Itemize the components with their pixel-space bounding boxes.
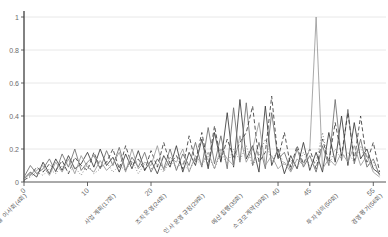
xtick-label: 45 xyxy=(302,187,313,198)
ytick-label: 0.6 xyxy=(9,80,19,87)
x-category-label: 경영평가(56회) xyxy=(350,192,384,226)
ytick-label: 0 xyxy=(15,179,19,186)
ytick-label: 0.4 xyxy=(9,113,19,120)
chart-container: 00.20.40.60.8101020404555월별 이사회(4회)사업계획(… xyxy=(0,0,388,237)
ytick-label: 0.8 xyxy=(9,47,19,54)
xtick-label: 20 xyxy=(143,187,154,198)
ytick-label: 1 xyxy=(15,14,19,21)
ytick-label: 0.2 xyxy=(9,146,19,153)
x-category-label: 사업계획(17회) xyxy=(83,192,117,226)
x-category-label: 인사 운영규정(29회) xyxy=(162,192,206,236)
x-category-label: 월별 이사회(4회) xyxy=(0,192,28,229)
x-category-label: 조직운영(24회) xyxy=(134,192,168,226)
xtick-label: 40 xyxy=(270,187,281,198)
xtick-label: 55 xyxy=(366,187,377,198)
xtick-label: 10 xyxy=(80,187,91,198)
x-category-label: 투자심의(50회) xyxy=(305,192,339,226)
line-chart: 00.20.40.60.8101020404555월별 이사회(4회)사업계획(… xyxy=(0,0,388,237)
